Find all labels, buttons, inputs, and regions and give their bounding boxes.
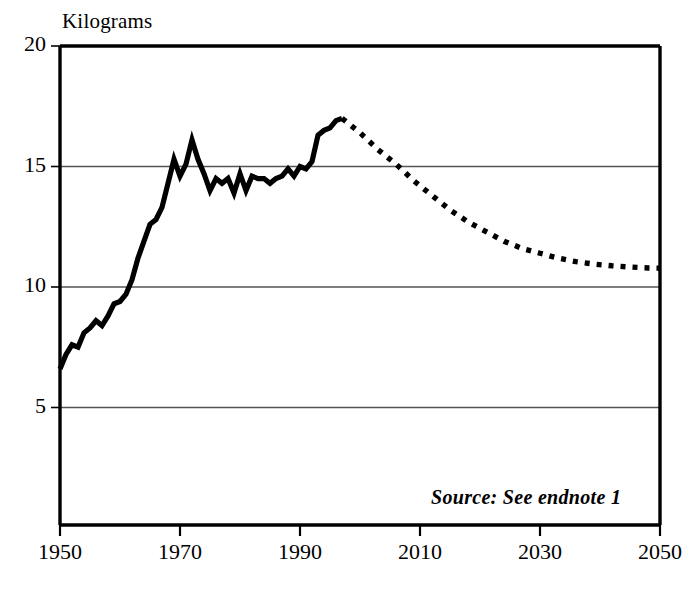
x-tick-label-2030: 2030 (500, 539, 580, 565)
y-tick-label-5: 5 (0, 393, 46, 419)
source-note: Source: See endnote 1 (431, 486, 621, 509)
x-tick-label-1950: 1950 (20, 539, 100, 565)
chart-container: Kilograms Source: See endnote 1 5101520 … (0, 0, 700, 590)
x-tick-label-2010: 2010 (380, 539, 460, 565)
historical-line (60, 118, 342, 369)
plot-frame (60, 46, 660, 525)
projection-line (342, 118, 660, 268)
x-tick-label-1990: 1990 (260, 539, 340, 565)
y-tick-label-15: 15 (0, 152, 46, 178)
x-tick-label-2050: 2050 (620, 539, 700, 565)
gridlines (60, 167, 660, 408)
x-tick-label-1970: 1970 (140, 539, 220, 565)
axis-ticks (51, 46, 660, 536)
y-tick-label-10: 10 (0, 272, 46, 298)
y-tick-label-20: 20 (0, 31, 46, 57)
series-historical-line (60, 118, 342, 369)
series-projection-line (342, 118, 660, 268)
y-axis-title: Kilograms (62, 9, 152, 34)
